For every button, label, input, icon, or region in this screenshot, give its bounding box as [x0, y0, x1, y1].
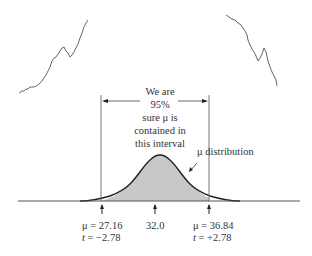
lower-bound-label: μ = 27.16 t = −2.78: [82, 220, 122, 244]
interval-line-2: 95%: [127, 98, 193, 111]
upper-t-value: t = +2.78: [193, 232, 233, 244]
center-value-label: 32.0: [146, 220, 164, 232]
interval-line-5: this interval: [127, 137, 193, 150]
interval-line-4: contained in: [127, 124, 193, 137]
interval-line-1: We are: [127, 85, 193, 98]
arrowhead-left-icon: [102, 99, 108, 103]
left-staircase-curve: [19, 20, 88, 93]
up-arrow-icon: [153, 204, 157, 209]
confidence-area: [101, 155, 209, 201]
lower-mu-value: μ = 27.16: [82, 220, 122, 232]
up-arrow-icon: [100, 204, 104, 209]
interval-description: We are 95% sure μ is contained in this i…: [127, 85, 193, 150]
up-arrow-icon: [207, 204, 211, 209]
upper-bound-label: μ = 36.84 t = +2.78: [193, 220, 233, 244]
upper-mu-value: μ = 36.84: [193, 220, 233, 232]
lower-t-value: t = −2.78: [82, 232, 122, 244]
curve-label: μ distribution: [197, 146, 254, 158]
arrowhead-right-icon: [202, 99, 208, 103]
interval-line-3: sure μ is: [127, 111, 193, 124]
right-staircase-curve: [226, 15, 277, 86]
